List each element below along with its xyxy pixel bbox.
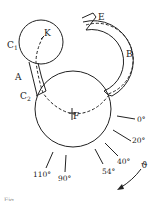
label-a: A: [14, 72, 22, 82]
theta-arrow: [120, 169, 141, 188]
label-f: F: [73, 111, 79, 121]
angle-label-20: 20°: [132, 136, 146, 145]
tube-circle-diagram: C1 K A C2 E B F ϑ 0° 20° 40° 54° 90° 110…: [0, 0, 156, 201]
label-c2: C2: [20, 91, 31, 102]
large-circle: [35, 71, 111, 147]
angle-label-110: 110°: [33, 170, 51, 179]
label-theta: ϑ: [141, 160, 148, 170]
angle-label-90: 90°: [58, 174, 72, 183]
label-b: B: [126, 49, 133, 59]
label-c1: C1: [7, 40, 18, 51]
caption: Fig. ...: [4, 196, 24, 201]
label-k: K: [44, 28, 51, 38]
angle-label-0: 0°: [137, 115, 146, 124]
angle-label-54: 54°: [102, 167, 116, 176]
angle-label-40: 40°: [117, 157, 131, 166]
label-e: E: [98, 12, 105, 22]
